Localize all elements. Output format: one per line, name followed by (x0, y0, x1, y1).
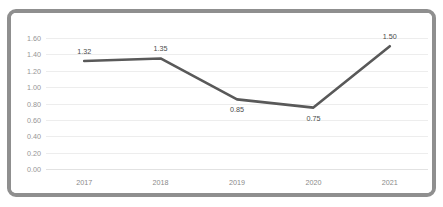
y-axis-tick-labels: 0.000.200.400.600.801.001.201.401.60 (27, 34, 41, 174)
line-chart[interactable]: 0.000.200.400.600.801.001.201.401.60 201… (11, 13, 432, 193)
x-axis-tick-label: 2021 (382, 178, 398, 187)
chart-plot-container: 0.000.200.400.600.801.001.201.401.60 201… (11, 13, 432, 193)
y-axis-tick-label: 1.20 (27, 67, 41, 76)
y-axis-tick-label: 1.60 (27, 34, 41, 43)
y-axis-tick-label: 0.00 (27, 165, 41, 174)
data-label-group: 1.321.350.850.751.50 (77, 32, 397, 122)
x-axis-tick-label: 2018 (153, 178, 169, 187)
y-axis-tick-label: 0.20 (27, 149, 41, 158)
chart-object-frame[interactable]: 0.000.200.400.600.801.001.201.401.60 201… (7, 9, 436, 197)
data-point-label: 0.85 (230, 105, 244, 114)
data-series-line (84, 46, 390, 107)
gridline-group (46, 39, 428, 170)
data-point-label: 1.32 (77, 47, 91, 56)
data-point-label: 0.75 (306, 114, 320, 123)
cropped-text-remnant (14, 0, 254, 5)
y-axis-tick-label: 0.40 (27, 132, 41, 141)
x-axis-tick-labels: 20172018201920202021 (76, 178, 398, 187)
x-axis-tick-label: 2017 (76, 178, 92, 187)
y-axis-tick-label: 0.80 (27, 100, 41, 109)
x-axis-tick-label: 2019 (229, 178, 245, 187)
data-point-label: 1.35 (154, 44, 168, 53)
screenshot-root: 0.000.200.400.600.801.001.201.401.60 201… (0, 0, 443, 207)
y-axis-tick-label: 0.60 (27, 116, 41, 125)
y-axis-tick-label: 1.40 (27, 50, 41, 59)
y-axis-tick-label: 1.00 (27, 83, 41, 92)
data-point-label: 1.50 (383, 32, 397, 41)
x-axis-tick-label: 2020 (305, 178, 321, 187)
